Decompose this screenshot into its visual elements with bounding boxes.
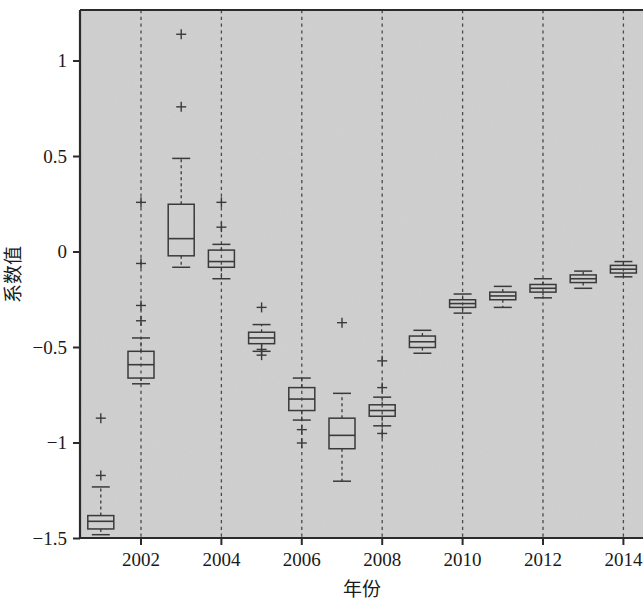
- boxplot-canvas: 10.50−0.5−1−1.52002200420062008201020122…: [0, 0, 643, 601]
- y-tick-label: −0.5: [33, 337, 67, 358]
- y-tick-label: 0.5: [43, 146, 67, 167]
- x-tick-label: 2014: [604, 549, 643, 570]
- y-tick-label: −1.5: [33, 528, 67, 549]
- x-tick-label: 2006: [283, 549, 321, 570]
- boxplot-figure: 10.50−0.5−1−1.52002200420062008201020122…: [0, 0, 643, 601]
- panel-texture: [80, 10, 643, 538]
- x-tick-label: 2002: [122, 549, 160, 570]
- y-axis-title: 系数值: [3, 246, 24, 303]
- x-tick-label: 2004: [202, 549, 241, 570]
- x-tick-label: 2008: [363, 549, 401, 570]
- x-axis-title: 年份: [343, 579, 381, 600]
- x-tick-label: 2010: [444, 549, 482, 570]
- y-tick-label: −1: [47, 432, 67, 453]
- y-tick-label: 1: [58, 50, 68, 71]
- plot-panel: [80, 10, 643, 538]
- y-tick-label: 0: [58, 241, 68, 262]
- x-tick-label: 2012: [524, 549, 562, 570]
